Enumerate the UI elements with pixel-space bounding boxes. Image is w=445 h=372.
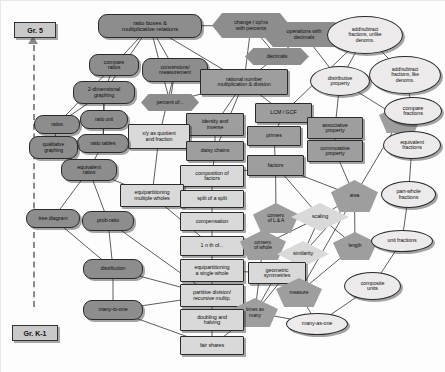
node-label-composite-units: compositeunits	[346, 281, 399, 292]
node-xy-quotient-fraction[interactable]: x/y as quotientand fraction	[128, 124, 190, 149]
node-label-addsub-like: add/subtractfractions, likedenoms.	[371, 67, 439, 82]
node-label-compare-ratios: compareratios	[91, 60, 137, 71]
node-label-scaling: scaling	[292, 214, 348, 220]
node-decimals[interactable]: decimals	[245, 48, 309, 65]
node-ratio-unit[interactable]: ratio unit	[80, 110, 128, 129]
node-label-conserv-l-a: conserv.of L & A	[254, 213, 298, 223]
node-rational-number-mult-div[interactable]: rational numbermultiplication & division	[200, 69, 288, 95]
node-equivalent-fractions[interactable]: equivalentfractions	[383, 131, 441, 159]
node-label-ratio-boxes: ratio boxes &multiplicative relations	[100, 20, 200, 32]
node-lcm-gcf[interactable]: LCM / GCF	[255, 103, 312, 123]
node-addsub-like[interactable]: add/subtractfractions, likedenoms.	[369, 56, 441, 94]
node-label-qualitative-graphing: qualitativegraphing	[31, 142, 76, 152]
node-conversions-measurement[interactable]: conversions/measurement	[142, 58, 208, 82]
node-unit-fractions[interactable]: unit fractions	[371, 230, 433, 252]
node-label-ratio-tables: ratio tables	[79, 141, 127, 147]
node-label-distributive-property: distributiveproperty	[312, 76, 368, 87]
node-label-lcm-gcf: LCM / GCF	[257, 110, 310, 116]
node-percent-of[interactable]: percent of...	[141, 94, 199, 111]
node-label-commutative-property: commutativeproperty	[309, 146, 361, 157]
node-label-part-whole-fractions: part-wholefractions	[383, 189, 434, 200]
node-label-decimals: decimals	[246, 54, 308, 60]
grade-axis-dashed-line	[33, 45, 35, 307]
node-label-ratios: ratios	[36, 122, 78, 127]
node-label-conversions-measurement: conversions/measurement	[144, 65, 206, 76]
node-equivalent-ratios[interactable]: equivalentratios	[61, 159, 117, 181]
node-label-xy-quotient-fraction: x/y as quotientand fraction	[130, 131, 188, 142]
node-label-rational-number-mult-div: rational numbermultiplication & division	[202, 77, 286, 88]
node-label-many-as-one: many-as-one	[288, 321, 346, 327]
node-label-length: length	[334, 243, 376, 248]
grade-label-bottom-text: Gr. K-1	[24, 330, 47, 337]
node-label-equivalent-fractions: equivalentfractions	[385, 140, 439, 151]
node-label-percent-of: percent of...	[142, 100, 198, 106]
node-ratio-tables[interactable]: ratio tables	[77, 134, 129, 153]
node-label-factors: factors	[249, 163, 302, 169]
node-split-of-a-split[interactable]: split of a split	[180, 190, 244, 208]
node-label-composition-of-factors: composition offactors	[182, 171, 242, 182]
node-label-unit-fractions: unit fractions	[373, 238, 431, 244]
node-label-measure: measure	[277, 290, 321, 295]
node-part-whole-fractions[interactable]: part-wholefractions	[381, 181, 436, 208]
node-commutative-property[interactable]: commutativeproperty	[307, 140, 363, 162]
node-fair-shares[interactable]: fair shares	[180, 336, 244, 355]
node-label-identity-and-inverse: identity andinverse	[188, 119, 242, 130]
node-tree-diagram[interactable]: tree diagram	[26, 209, 80, 228]
node-label-prob-ratio: prob-ratio	[84, 218, 132, 224]
node-distribution[interactable]: distribution	[83, 259, 143, 279]
node-many-to-one[interactable]: many-to-one	[83, 300, 143, 320]
grade-label-bottom: Gr. K-1	[12, 325, 58, 341]
node-prob-ratio[interactable]: prob-ratio	[82, 211, 134, 231]
node-addsub-unlike[interactable]: add/subtractfractions, unlikedenoms.	[327, 16, 403, 54]
node-label-daisy-chains: daisy chains	[188, 148, 242, 154]
node-compare-fractions[interactable]: comparefractions	[384, 97, 442, 125]
node-label-similarity: similarity	[278, 251, 328, 257]
node-label-ratio-unit: ratio unit	[82, 117, 126, 122]
node-label-area: area	[332, 193, 377, 198]
node-label-equipart-single-whole: equipartitioninga single whole	[182, 265, 242, 276]
node-distributive-property[interactable]: distributiveproperty	[310, 66, 370, 96]
node-label-one-nth-of: 1 n th of...	[182, 243, 242, 249]
node-primes[interactable]: primes	[247, 126, 301, 146]
node-label-2d-graphing: 2-dimensionalgraphing	[75, 87, 133, 98]
node-ratios[interactable]: ratios	[34, 115, 80, 134]
node-label-many-to-one: many-to-one	[85, 307, 141, 313]
node-compare-ratios[interactable]: compareratios	[89, 54, 139, 76]
node-label-fair-shares: fair shares	[182, 343, 242, 349]
node-composite-units[interactable]: compositeunits	[344, 272, 401, 300]
node-ratio-boxes[interactable]: ratio boxes &multiplicative relations	[98, 14, 202, 38]
node-label-equivalent-ratios: equivalentratios	[63, 165, 115, 176]
node-label-compensation: compensation	[182, 219, 242, 225]
node-label-geometric-symmetries: geometricsymmetries	[250, 268, 304, 279]
node-label-partitive-division: partitive division/recursive multip.	[182, 290, 242, 301]
node-equipart-single-whole[interactable]: equipartitioninga single whole	[180, 259, 244, 282]
concept-map-canvas: Gr. 5 Gr. K-1 ratio boxes &multiplicativ…	[0, 0, 445, 372]
node-label-doubling-and-halving: doubling andhalving	[182, 315, 242, 326]
node-label-addsub-unlike: add/subtractfractions, unlikedenoms.	[329, 27, 401, 42]
node-composition-of-factors[interactable]: composition offactors	[180, 165, 244, 187]
node-label-split-of-a-split: split of a split	[182, 196, 242, 202]
node-2d-graphing[interactable]: 2-dimensionalgraphing	[73, 81, 135, 104]
node-many-as-one[interactable]: many-as-one	[286, 313, 348, 335]
node-daisy-chains[interactable]: daisy chains	[186, 141, 244, 161]
node-qualitative-graphing[interactable]: qualitativegraphing	[29, 136, 78, 159]
node-label-primes: primes	[249, 133, 299, 139]
node-doubling-and-halving[interactable]: doubling andhalving	[180, 309, 244, 331]
node-compensation[interactable]: compensation	[180, 212, 244, 231]
node-label-compare-fractions: comparefractions	[386, 106, 440, 117]
node-label-conserv-of-whole: conserv.of whole	[241, 240, 285, 250]
node-factors[interactable]: factors	[247, 155, 304, 176]
node-associative-property[interactable]: associativeproperty	[307, 117, 363, 139]
node-equipart-multiple-wholes[interactable]: equipartitioningmultiple wholes	[120, 184, 184, 207]
node-label-tree-diagram: tree diagram	[28, 216, 78, 222]
grade-label-top-text: Gr. 5	[27, 27, 43, 34]
node-identity-and-inverse[interactable]: identity andinverse	[186, 113, 244, 136]
node-label-distribution: distribution	[85, 266, 141, 272]
node-label-associative-property: associativeproperty	[309, 123, 361, 134]
grade-label-top: Gr. 5	[14, 22, 56, 38]
node-label-equipart-multiple-wholes: equipartitioningmultiple wholes	[122, 190, 182, 201]
node-one-nth-of[interactable]: 1 n th of...	[180, 236, 244, 256]
node-partitive-division[interactable]: partitive division/recursive multip.	[180, 284, 244, 307]
